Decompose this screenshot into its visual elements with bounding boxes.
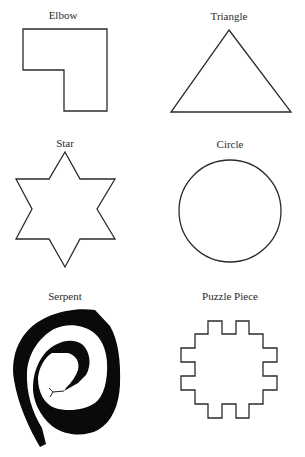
puzzle-piece-label: Puzzle Piece xyxy=(202,291,258,302)
star-label: Star xyxy=(56,138,74,149)
elbow-shape xyxy=(23,29,107,111)
shapes-canvas xyxy=(0,0,305,457)
puzzle-piece-shape xyxy=(181,321,277,418)
serpent-shape xyxy=(13,309,120,447)
circle-label: Circle xyxy=(217,139,244,150)
triangle-label: Triangle xyxy=(211,11,248,22)
triangle-shape xyxy=(171,30,291,112)
star-shape xyxy=(16,152,115,267)
circle-shape xyxy=(179,160,281,262)
elbow-label: Elbow xyxy=(49,10,78,21)
serpent-label: Serpent xyxy=(48,291,82,302)
